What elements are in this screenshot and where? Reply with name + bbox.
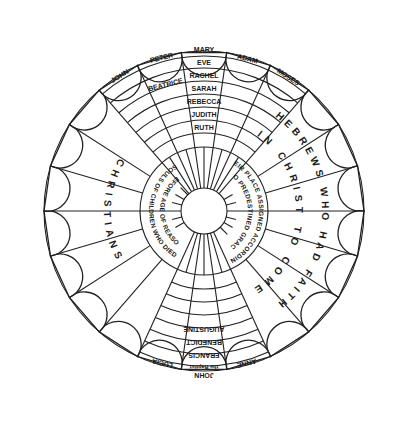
label-augustine: AUGUSTINE [183,326,225,333]
label-mary: MARY [194,46,215,53]
petal [267,321,309,356]
left-tick [175,223,184,228]
label-john-baptist: JOHN [194,372,213,379]
label-benedict: BENEDICT [185,339,222,346]
band-their-place: THEIR PLACE ASSIGNED ACCORDING [0,0,265,265]
label-judith: JUDITH [191,111,216,118]
petal [69,90,107,130]
left-tick [172,217,182,220]
curved-labels: THEIR PLACE ASSIGNED ACCORDINGTO PREDEST… [0,0,331,312]
petal [338,211,364,256]
petal [50,124,82,167]
right-tick [224,223,233,228]
right-tick [226,202,236,205]
label-rachel: RACHEL [189,72,219,79]
petal [50,254,82,297]
petal [99,321,141,356]
left-spoke [99,259,162,332]
petal [338,166,364,211]
right-tick [220,227,227,234]
rose-diagram: MARY EVE RACHEL SARAH REBECCA JUDITH RUT… [0,0,409,428]
left-tick [172,202,182,205]
left-tick [175,195,184,200]
rose-diagram-canvas: MARY EVE RACHEL SARAH REBECCA JUDITH RUT… [0,0,409,428]
petal [44,211,70,256]
petal [325,254,357,297]
petal [325,124,357,167]
hub-circle [181,188,227,234]
label-eve: EVE [197,59,211,66]
bottom-ring [161,306,247,315]
label-sarah: SARAH [192,85,217,92]
right-tick [226,217,236,220]
label-francis: FRANCIS [188,352,219,359]
label-rebecca: REBECCA [187,98,222,105]
petal [301,90,339,130]
right-tick [224,195,233,200]
petal [44,166,70,211]
label-the-baptist: the Baptist [190,364,219,370]
bottom-ring [166,294,242,302]
label-ruth: RUTH [194,124,213,131]
petal [301,292,339,332]
bottom-ring [172,282,237,289]
petal [69,292,107,332]
